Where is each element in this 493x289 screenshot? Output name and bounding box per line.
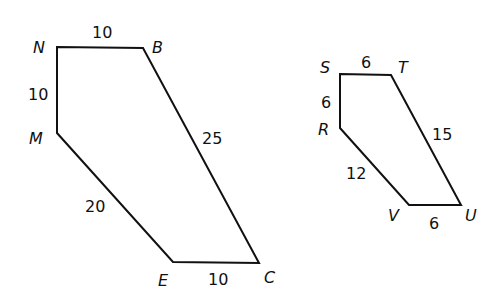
side-length-rv: 12 xyxy=(346,164,366,183)
vertex-label-e: E xyxy=(158,271,169,289)
side-length-sr: 6 xyxy=(321,93,331,112)
side-length-nb: 10 xyxy=(92,23,112,42)
figure-1: N B M E C 10 10 25 20 10 xyxy=(28,23,276,289)
vertex-label-c: C xyxy=(264,268,276,287)
diagram-canvas: N B M E C 10 10 25 20 10 S T R V U 6 6 1… xyxy=(0,0,493,289)
vertex-label-n: N xyxy=(33,38,45,57)
side-length-nm: 10 xyxy=(28,85,48,104)
vertex-label-m: M xyxy=(29,129,43,148)
vertex-label-b: B xyxy=(152,38,163,57)
side-length-vu: 6 xyxy=(429,214,439,233)
side-length-me: 20 xyxy=(85,197,105,216)
side-length-tu: 15 xyxy=(432,125,452,144)
vertex-label-t: T xyxy=(398,58,409,77)
side-length-st: 6 xyxy=(361,53,371,72)
side-length-ec: 10 xyxy=(208,270,228,289)
figure-2: S T R V U 6 6 15 12 6 xyxy=(318,53,477,233)
vertex-label-r: R xyxy=(318,120,329,139)
pentagon-nbcem xyxy=(57,47,259,263)
vertex-label-v: V xyxy=(388,206,400,225)
vertex-label-s: S xyxy=(320,58,330,77)
vertex-label-u: U xyxy=(465,206,477,225)
side-length-bc: 25 xyxy=(202,129,222,148)
